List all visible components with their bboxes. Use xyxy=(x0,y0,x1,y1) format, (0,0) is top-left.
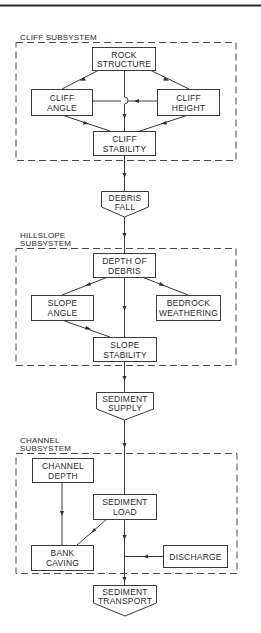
node-label: SLOPE xyxy=(48,298,77,308)
node-bank-caving: BANK CAVING xyxy=(32,546,94,571)
node-label: CLIFF xyxy=(112,134,137,144)
node-label: ANGLE xyxy=(48,308,78,318)
channel-subsystem-label-line2: SUBSYSTEM xyxy=(20,444,71,453)
output-sediment-transport: SEDIMENT TRANSPORT xyxy=(94,586,157,617)
node-label: BANK xyxy=(51,548,75,558)
arrowhead xyxy=(85,282,91,286)
hillslope-subsystem-label-line2: SUBSYSTEM xyxy=(20,239,71,248)
node-label: STABILITY xyxy=(103,350,147,360)
hillslope-subsystem: HILLSLOPE SUBSYSTEM DEPTH OF DEBRIS SLOP… xyxy=(16,231,236,366)
arrowhead xyxy=(123,577,127,582)
arrowhead xyxy=(134,99,139,103)
node-label: WEATHERING xyxy=(159,308,218,318)
node-label: ROCK xyxy=(111,50,136,60)
node-slope-angle: SLOPE ANGLE xyxy=(32,296,94,321)
node-sediment-load: SEDIMENT LOAD xyxy=(94,495,157,520)
node-label: DISCHARGE xyxy=(169,552,221,562)
arrowhead xyxy=(123,173,127,178)
output-label: FALL xyxy=(115,202,136,212)
node-label: DEBRIS xyxy=(108,266,141,276)
node-discharge: DISCHARGE xyxy=(164,546,228,568)
node-label: CLIFF xyxy=(176,93,201,103)
node-cliff-stability: CLIFF STABILITY xyxy=(94,132,156,156)
flowchart-diagram: CLIFF SUBSYSTEM ROCK STRUCTURE CLIFF ANG… xyxy=(0,0,261,633)
arrowhead xyxy=(123,443,127,448)
arrowhead xyxy=(123,535,127,540)
node-label: CLIFF xyxy=(50,93,75,103)
node-label: CHANNEL xyxy=(42,461,84,471)
arrowhead xyxy=(123,233,127,238)
node-depth-of-debris: DEPTH OF DEBRIS xyxy=(94,254,156,278)
node-cliff-angle: CLIFF ANGLE xyxy=(32,90,93,116)
edge-rock-to-cliff-angle xyxy=(62,70,99,89)
node-bedrock-weathering: BEDROCK WEATHERING xyxy=(157,296,221,321)
arrowhead xyxy=(83,121,89,125)
cliff-subsystem: CLIFF SUBSYSTEM ROCK STRUCTURE CLIFF ANG… xyxy=(16,33,236,161)
node-label: SEDIMENT xyxy=(102,497,148,507)
arrowhead xyxy=(159,282,165,286)
arrowhead xyxy=(85,326,91,330)
node-label: SLOPE xyxy=(110,340,139,350)
node-rock-structure: ROCK STRUCTURE xyxy=(93,48,156,71)
edge-rock-to-cliff-height xyxy=(150,70,189,89)
channel-subsystem: CHANNEL SUBSYSTEM CHANNEL DEPTH SEDIMENT… xyxy=(16,436,237,586)
arrowhead xyxy=(123,376,127,381)
arrowhead xyxy=(123,306,127,311)
node-slope-stability: SLOPE STABILITY xyxy=(94,338,157,362)
arrowhead xyxy=(123,114,127,119)
arrowhead xyxy=(143,555,148,559)
node-label: STRUCTURE xyxy=(97,59,151,69)
node-channel-depth: CHANNEL DEPTH xyxy=(33,459,94,483)
node-label: HEIGHT xyxy=(172,103,205,113)
arrowhead xyxy=(161,121,167,125)
node-label: DEPTH OF xyxy=(102,256,147,266)
output-label: TRANSPORT xyxy=(98,596,152,606)
node-label: CAVING xyxy=(46,558,79,568)
node-label: BEDROCK xyxy=(167,298,211,308)
cliff-subsystem-label: CLIFF SUBSYSTEM xyxy=(20,33,97,42)
arrowhead xyxy=(60,511,64,516)
node-label: ANGLE xyxy=(47,103,77,113)
output-debris-fall: DEBRIS FALL xyxy=(102,192,149,218)
node-label: LOAD xyxy=(113,507,137,517)
output-sediment-supply: SEDIMENT SUPPLY xyxy=(97,393,154,421)
line-hop xyxy=(125,97,129,104)
output-label: SUPPLY xyxy=(108,403,142,413)
node-label: DEPTH xyxy=(48,471,78,481)
node-label: STABILITY xyxy=(103,144,147,154)
node-cliff-height: CLIFF HEIGHT xyxy=(158,90,220,116)
